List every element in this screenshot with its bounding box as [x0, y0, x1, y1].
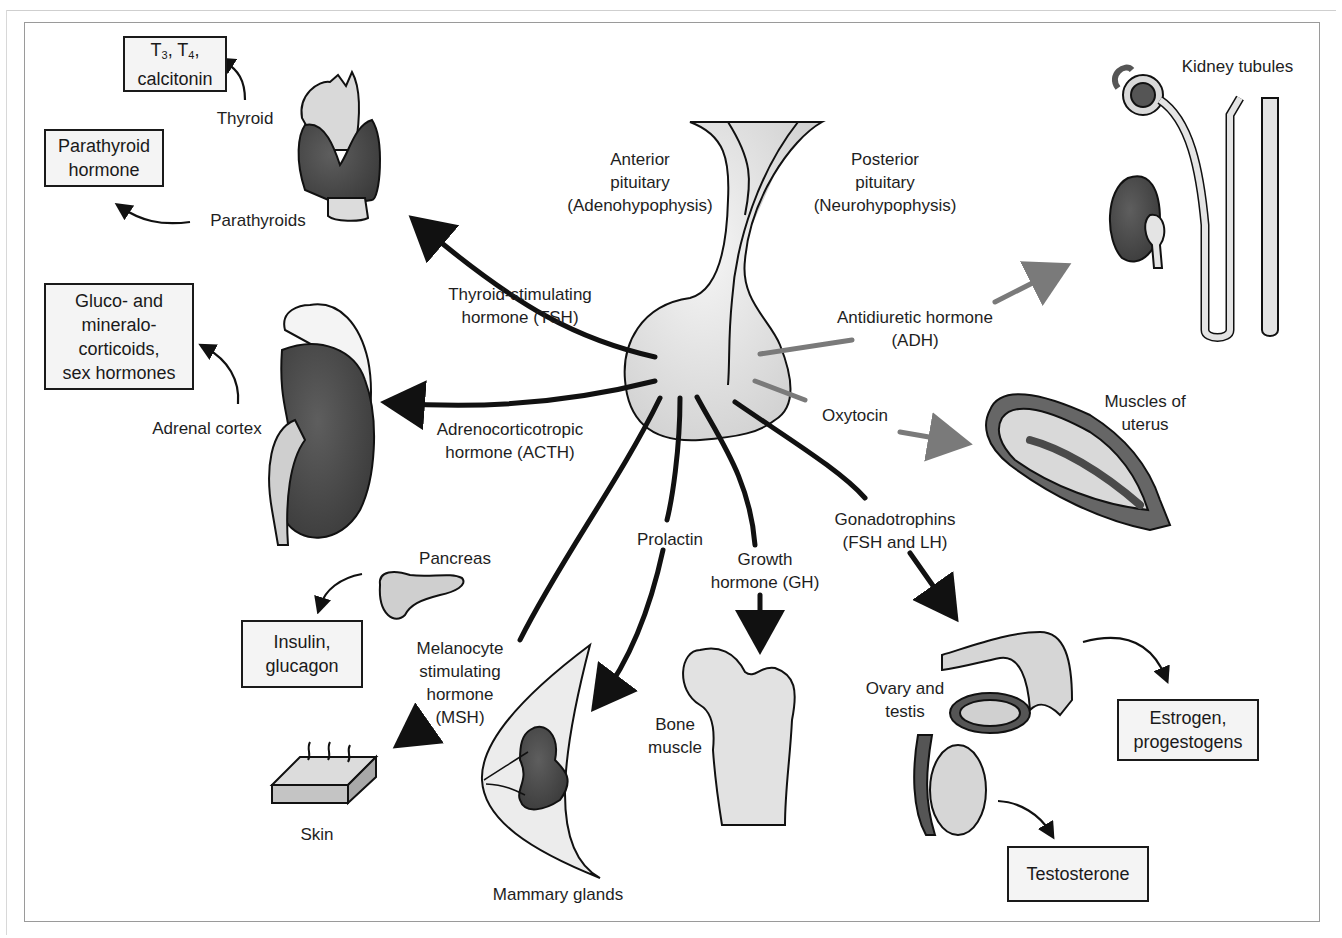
gh-label: Growth hormone (GH): [690, 548, 840, 594]
adh-line1: Antidiuretic hormone: [837, 308, 993, 327]
pancreas-box-line2: glucagon: [265, 654, 338, 678]
msh-line2: stimulating: [419, 662, 500, 681]
kidney-tubules-illustration: [1110, 68, 1278, 338]
acth-label: Adrenocorticotropic hormone (ACTH): [410, 418, 610, 464]
posterior-line3: (Neurohypophysis): [814, 196, 957, 215]
adrenal-cortex-label: Adrenal cortex: [137, 417, 277, 440]
gonadotrophins-line2: (FSH and LH): [843, 533, 948, 552]
parathyroids-label: Parathyroids: [193, 209, 323, 232]
ovary-testis-label: Ovary and testis: [855, 677, 955, 723]
adh-label: Antidiuretic hormone (ADH): [810, 306, 1020, 352]
msh-line4: (MSH): [435, 708, 484, 727]
tsh-line2: hormone (TSH): [461, 308, 578, 327]
pancreas-box-line1: Insulin,: [273, 630, 330, 654]
acth-line1: Adrenocorticotropic: [437, 420, 583, 439]
parathyroid-box-line2: hormone: [68, 158, 139, 182]
adrenal-box-line1: Gluco- and: [75, 289, 163, 313]
adrenal-box-line3: corticoids,: [78, 337, 159, 361]
anterior-line3: (Adenohypophysis): [567, 196, 713, 215]
gonads-line1: Ovary and: [866, 679, 944, 698]
oxytocin-label: Oxytocin: [805, 404, 905, 427]
acth-line2: hormone (ACTH): [445, 443, 574, 462]
prolactin-line1: Prolactin: [637, 530, 703, 549]
thyroid-illustration: [299, 72, 380, 221]
pancreas-label: Pancreas: [405, 547, 505, 570]
t4-text: , T: [168, 40, 189, 60]
gh-line1: Growth: [738, 550, 793, 569]
uterus-line1: Muscles of: [1104, 392, 1185, 411]
adrenal-kidney-illustration: [269, 304, 374, 545]
kidney-tubules-label: Kidney tubules: [1165, 55, 1310, 78]
gh-line2: hormone (GH): [711, 573, 820, 592]
skin-label: Skin: [287, 823, 347, 846]
testis-box-line1: Testosterone: [1026, 862, 1129, 886]
tsh-label: Thyroid-stimulating hormone (TSH): [420, 283, 620, 329]
posterior-line2: pituitary: [855, 173, 915, 192]
posterior-pituitary-label: Posterior pituitary (Neurohypophysis): [775, 148, 995, 217]
parathyroid-box-line1: Parathyroid: [58, 134, 150, 158]
adh-line2: (ADH): [891, 331, 938, 350]
thyroid-box-line1: T3, T4,: [151, 38, 200, 67]
thyroid-label: Thyroid: [205, 107, 285, 130]
gonadotrophins-line1: Gonadotrophins: [835, 510, 956, 529]
uterus-label: Muscles of uterus: [1085, 390, 1205, 436]
anterior-pituitary-label: Anterior pituitary (Adenohypophysis): [530, 148, 750, 217]
adrenal-box-line4: sex hormones: [62, 361, 175, 385]
posterior-line1: Posterior: [851, 150, 919, 169]
testosterone-box: Testosterone: [1007, 846, 1149, 902]
bone-line2: muscle: [648, 738, 702, 757]
ovary-box-line1: Estrogen,: [1149, 706, 1226, 730]
oxytocin-line1: Oxytocin: [822, 406, 888, 425]
tsh-line1: Thyroid-stimulating: [448, 285, 592, 304]
corticoids-box: Gluco- and mineralo- corticoids, sex hor…: [44, 283, 194, 390]
bone-muscle-label: Bone muscle: [640, 713, 710, 759]
skin-illustration: [272, 742, 376, 803]
adrenal-box-line2: mineralo-: [81, 313, 156, 337]
t3-text: T: [151, 40, 162, 60]
diagram-artwork: [0, 0, 1342, 938]
sep-text: ,: [194, 40, 199, 60]
parathyroid-hormone-box: Parathyroid hormone: [44, 129, 164, 187]
ovary-testis-illustration: [914, 632, 1072, 835]
msh-line3: hormone: [426, 685, 493, 704]
gonads-line2: testis: [885, 702, 925, 721]
estrogen-progestogens-box: Estrogen, progestogens: [1117, 699, 1259, 761]
thyroid-box-line2: calcitonin: [137, 67, 212, 91]
bone-line1: Bone: [655, 715, 695, 734]
pancreas-illustration: [380, 572, 464, 619]
ovary-box-line2: progestogens: [1133, 730, 1242, 754]
anterior-line2: pituitary: [610, 173, 670, 192]
anterior-line1: Anterior: [610, 150, 670, 169]
insulin-glucagon-box: Insulin, glucagon: [241, 620, 363, 688]
thyroid-hormones-box: T3, T4, calcitonin: [123, 36, 227, 92]
mammary-glands-label: Mammary glands: [478, 883, 638, 906]
msh-label: Melanocyte stimulating hormone (MSH): [395, 637, 525, 729]
gonadotrophins-label: Gonadotrophins (FSH and LH): [815, 508, 975, 554]
uterus-line2: uterus: [1121, 415, 1168, 434]
msh-line1: Melanocyte: [417, 639, 504, 658]
